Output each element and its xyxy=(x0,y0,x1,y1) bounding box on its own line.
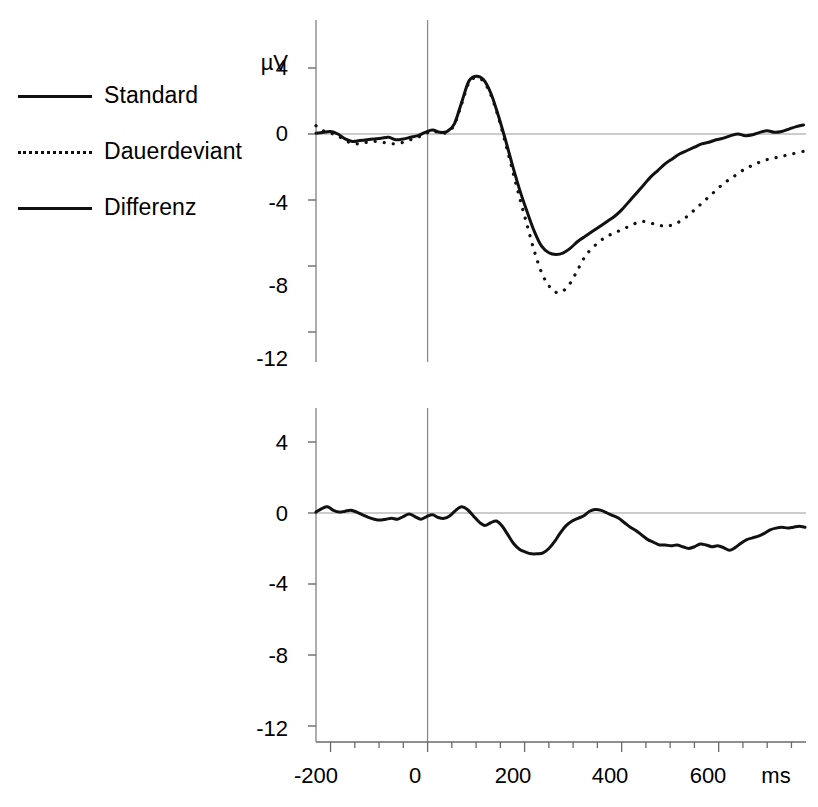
series-differenz xyxy=(316,507,805,554)
y-tick-label-upper-0: 0 xyxy=(228,123,288,145)
x-axis-unit-label: ms xyxy=(736,765,816,787)
y-tick-label-lower-minus12: -12 xyxy=(228,718,288,740)
plot-svg xyxy=(0,0,818,807)
y-tick-label-lower-0: 0 xyxy=(228,503,288,525)
y-tick-label-upper-minus12: -12 xyxy=(228,348,288,370)
series-standard xyxy=(316,76,804,254)
y-tick-label-upper-minus4: -4 xyxy=(228,192,288,214)
x-tick-label-0: 0 xyxy=(375,765,455,787)
x-tick-label-200: 200 xyxy=(473,765,553,787)
series-dauerdeviant xyxy=(316,78,804,293)
erp-figure: Standard Dauerdeviant Differenz µV 4 0 -… xyxy=(0,0,818,807)
plot-panels xyxy=(0,0,818,807)
y-tick-label-upper-minus8: -8 xyxy=(228,275,288,297)
y-tick-label-lower-4: 4 xyxy=(228,432,288,454)
y-tick-label-lower-minus8: -8 xyxy=(228,645,288,667)
lower-panel xyxy=(308,408,806,752)
x-tick-label-minus200: -200 xyxy=(276,765,356,787)
x-tick-label-400: 400 xyxy=(570,765,650,787)
y-tick-label-upper-4: 4 xyxy=(228,57,288,79)
y-tick-label-lower-minus4: -4 xyxy=(228,573,288,595)
upper-panel xyxy=(308,20,806,362)
